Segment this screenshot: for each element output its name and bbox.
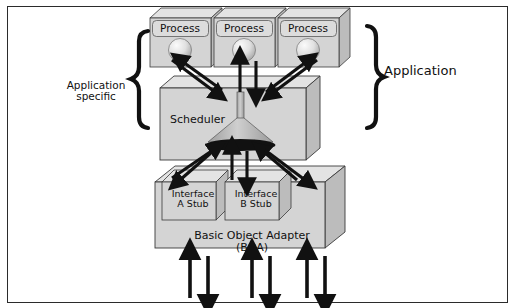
process-block-1[interactable] xyxy=(214,8,286,67)
scheduler-label: Scheduler xyxy=(170,114,225,126)
process-sphere-2 xyxy=(297,39,320,62)
process-label-0: Process xyxy=(153,22,207,34)
process-block-2[interactable] xyxy=(278,8,350,67)
process-sphere-1 xyxy=(233,39,256,62)
application-specific-label: Application specific xyxy=(57,80,135,103)
process-block-0[interactable] xyxy=(150,8,222,67)
funnel-base-ellipse xyxy=(206,139,276,151)
stub-a-label: Interface A Stub xyxy=(165,189,221,210)
boa-label: Basic Object Adapter (BOA) xyxy=(176,230,328,254)
process-sphere-0 xyxy=(169,39,192,62)
stub-b-label: Interface B Stub xyxy=(228,189,284,210)
process-label-2: Process xyxy=(281,22,335,34)
diagram-canvas xyxy=(0,0,519,308)
process-label-1: Process xyxy=(217,22,271,34)
arrow-group-boa-external xyxy=(190,256,325,298)
right-brace xyxy=(367,26,384,128)
application-label: Application xyxy=(384,64,457,78)
